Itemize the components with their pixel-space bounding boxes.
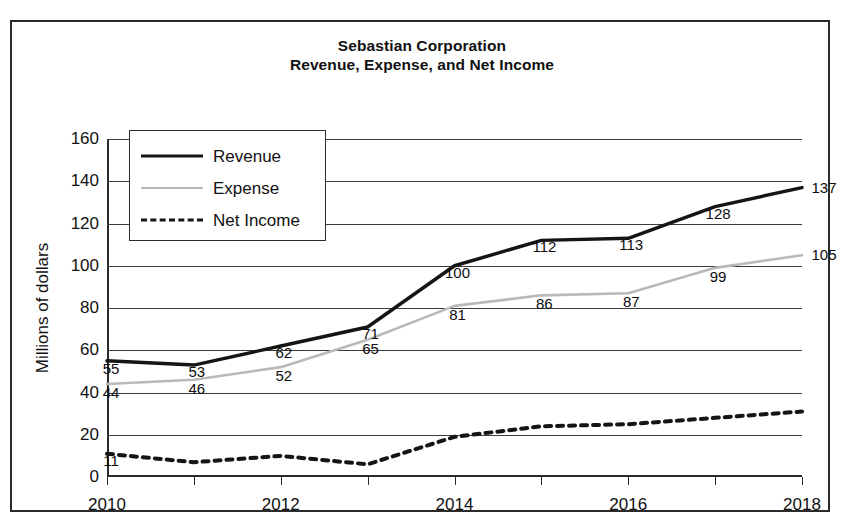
x-tick-2018 bbox=[802, 477, 803, 485]
data-label-revenue-2012: 62 bbox=[275, 344, 292, 361]
x-tick-2017 bbox=[715, 477, 716, 485]
data-label-expense-2010: 44 bbox=[103, 384, 120, 401]
chart-title-line-1: Sebastian Corporation bbox=[12, 36, 832, 55]
y-tick-label-20: 20 bbox=[39, 425, 99, 445]
data-label-expense-2011: 46 bbox=[189, 379, 206, 396]
x-tick-label-2018: 2018 bbox=[767, 495, 837, 515]
data-label-expense-2017: 99 bbox=[710, 267, 727, 284]
data-label-expense-2015: 86 bbox=[536, 295, 553, 312]
data-label-expense-2012: 52 bbox=[275, 367, 292, 384]
y-tick-label-40: 40 bbox=[39, 383, 99, 403]
chart-title: Sebastian Corporation Revenue, Expense, … bbox=[12, 36, 832, 74]
data-label-expense-2016: 87 bbox=[623, 293, 640, 310]
data-label-expense-2013: 65 bbox=[362, 339, 379, 356]
chart-title-line-2: Revenue, Expense, and Net Income bbox=[12, 55, 832, 74]
data-label-expense-2018: 105 bbox=[811, 246, 836, 263]
x-tick-2016 bbox=[628, 477, 629, 485]
x-tick-label-2014: 2014 bbox=[420, 495, 490, 515]
legend: Revenue Expense Net Income bbox=[129, 130, 326, 241]
data-label-net-income-2010: 11 bbox=[103, 451, 119, 468]
y-axis-title: Millions of dollars bbox=[33, 243, 53, 373]
chart-screenshot: Sebastian Corporation Revenue, Expense, … bbox=[0, 0, 841, 532]
y-tick-label-160: 160 bbox=[39, 129, 99, 149]
legend-key-expense-icon bbox=[141, 181, 203, 195]
x-tick-2010 bbox=[107, 477, 108, 485]
legend-key-net-income-icon bbox=[141, 213, 203, 227]
data-label-revenue-2016: 113 bbox=[619, 236, 643, 253]
legend-item-net-income: Net Income bbox=[130, 204, 325, 236]
y-tick-label-0: 0 bbox=[39, 467, 99, 487]
data-label-revenue-2014: 100 bbox=[445, 263, 470, 280]
legend-item-expense: Expense bbox=[130, 172, 325, 204]
y-tick-label-120: 120 bbox=[39, 214, 99, 234]
y-tick-label-140: 140 bbox=[39, 171, 99, 191]
data-label-revenue-2017: 128 bbox=[706, 204, 731, 221]
x-tick-label-2012: 2012 bbox=[246, 495, 316, 515]
legend-key-revenue-icon bbox=[141, 149, 203, 163]
data-label-revenue-2015: 112 bbox=[532, 238, 556, 255]
data-label-revenue-2018: 137 bbox=[811, 178, 836, 195]
data-label-revenue-2011: 53 bbox=[189, 363, 206, 380]
x-tick-label-2010: 2010 bbox=[72, 495, 142, 515]
data-label-revenue-2010: 55 bbox=[103, 359, 120, 376]
legend-label-revenue: Revenue bbox=[213, 148, 281, 165]
x-tick-2014 bbox=[455, 477, 456, 485]
legend-label-expense: Expense bbox=[213, 180, 279, 197]
x-tick-2015 bbox=[541, 477, 542, 485]
x-tick-2013 bbox=[368, 477, 369, 485]
legend-label-net-income: Net Income bbox=[213, 212, 300, 229]
x-tick-2011 bbox=[194, 477, 195, 485]
x-tick-2012 bbox=[281, 477, 282, 485]
x-tick-label-2016: 2016 bbox=[593, 495, 663, 515]
line-net-income bbox=[107, 412, 802, 465]
chart-frame: Sebastian Corporation Revenue, Expense, … bbox=[10, 20, 830, 512]
data-label-expense-2014: 81 bbox=[449, 305, 466, 322]
legend-item-revenue: Revenue bbox=[130, 140, 325, 172]
